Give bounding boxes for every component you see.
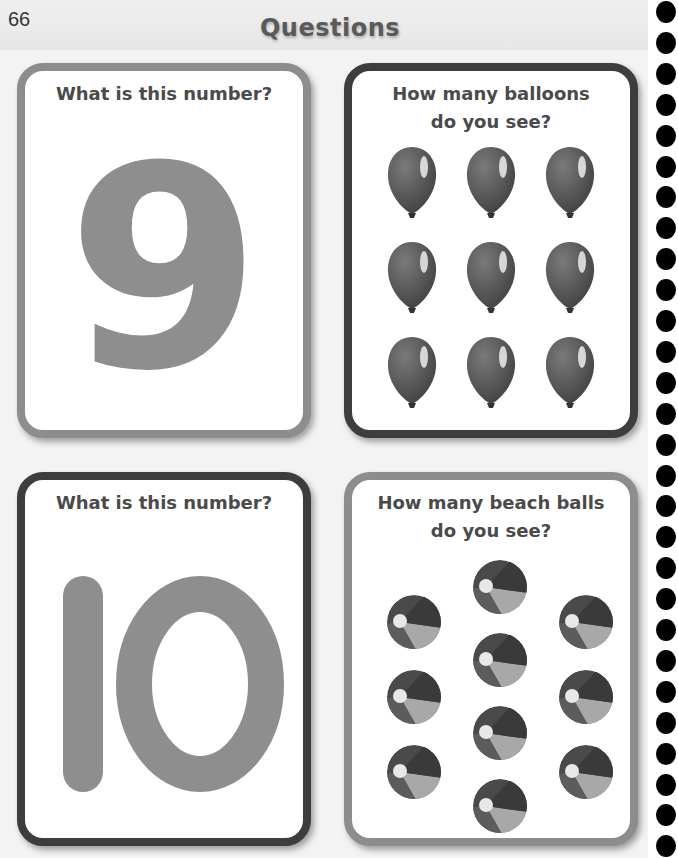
beach-ball-icon [472,632,528,692]
spiral-hole-icon [656,156,676,178]
beach-ball-icon [558,669,614,729]
balloon-icon [386,145,438,225]
spiral-hole-icon [656,341,676,363]
spiral-hole-icon [656,495,676,517]
spiral-hole-icon [656,94,676,116]
spiral-hole-icon [656,248,676,270]
balloon-icon [465,145,517,225]
spiral-binding [648,0,678,858]
beach-ball-icon [558,744,614,804]
card-beach-balls: How many beach balls do you see? [344,472,638,846]
spiral-hole-icon [656,186,676,208]
balloon-icon [465,335,517,415]
spiral-hole-icon [656,712,676,734]
big-number-nine: 9 [25,119,303,419]
card-title-line1: How many beach balls [352,488,630,518]
beach-ball-icon [472,559,528,619]
card-title: What is this number? [25,79,303,109]
spiral-hole-icon [656,588,676,610]
beach-ball-icon [472,705,528,765]
page-title: Questions [0,14,660,42]
balloon-icon [465,240,517,320]
spiral-hole-icon [656,1,676,23]
beach-ball-icon [472,778,528,838]
spiral-hole-icon [656,32,676,54]
balloon-icon [544,335,596,415]
number-ten-glyph [25,480,303,838]
beach-ball-icon [386,669,442,729]
beach-ball-icon [558,594,614,654]
spiral-hole-icon [656,681,676,703]
card-title-line2: do you see? [352,516,630,546]
card-title-line2: do you see? [352,107,630,137]
balloon-icon [544,145,596,225]
card-number-ten: What is this number? [17,472,311,846]
spiral-hole-icon [656,372,676,394]
balloon-icon [386,240,438,320]
spiral-hole-icon [656,63,676,85]
spiral-hole-icon [656,279,676,301]
spiral-hole-icon [656,310,676,332]
spiral-hole-icon [656,526,676,548]
card-number-nine: What is this number? 9 [17,63,311,438]
spiral-hole-icon [656,835,676,857]
spiral-hole-icon [656,434,676,456]
spiral-hole-icon [656,650,676,672]
spiral-hole-icon [656,217,676,239]
spiral-hole-icon [656,743,676,765]
spiral-hole-icon [656,774,676,796]
beach-ball-icon [386,744,442,804]
balloon-icon [386,335,438,415]
spiral-hole-icon [656,465,676,487]
big-number-ten [25,480,303,838]
balloon-icon [544,240,596,320]
card-title-line1: How many balloons [352,79,630,109]
spiral-hole-icon [656,619,676,641]
card-balloons: How many balloons do you see? [344,63,638,438]
beach-ball-icon [386,594,442,654]
spiral-hole-icon [656,403,676,425]
spiral-hole-icon [656,557,676,579]
spiral-hole-icon [656,125,676,147]
spiral-hole-icon [656,804,676,826]
